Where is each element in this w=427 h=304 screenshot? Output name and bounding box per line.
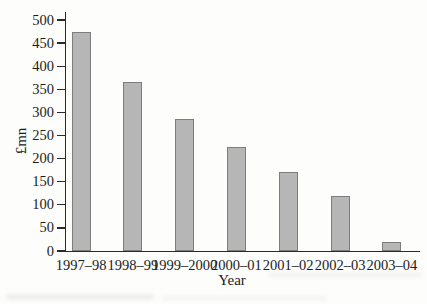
y-tick-label: 450	[22, 36, 54, 51]
y-tick-label: 400	[22, 59, 54, 74]
y-tick-mark	[57, 227, 65, 228]
bar	[331, 196, 350, 251]
y-tick-label: 350	[22, 82, 54, 97]
y-tick-mark	[57, 204, 65, 205]
x-category-label: 2003–04	[356, 257, 427, 273]
y-tick-label: 150	[22, 174, 54, 189]
bar	[227, 147, 246, 251]
y-tick-mark	[57, 66, 65, 67]
bar	[72, 32, 91, 251]
y-tick-label: 50	[22, 220, 54, 235]
bar	[123, 82, 142, 251]
y-axis-line	[65, 12, 66, 252]
scan-artifact	[162, 297, 327, 300]
bar-chart-figure: £mn 0501001502002503003504004505001997–9…	[0, 0, 427, 304]
scan-artifact	[6, 295, 154, 299]
y-tick-mark	[57, 112, 65, 113]
bar	[175, 119, 194, 251]
y-tick-mark	[57, 158, 65, 159]
y-tick-label: 500	[22, 13, 54, 28]
y-tick-label: 200	[22, 151, 54, 166]
y-tick-mark	[57, 42, 65, 43]
y-tick-label: 100	[22, 197, 54, 212]
bar	[382, 242, 401, 251]
y-tick-label: 250	[22, 128, 54, 143]
scan-artifact	[268, 273, 423, 277]
y-tick-mark	[57, 135, 65, 136]
y-tick-mark	[57, 89, 65, 90]
bar	[279, 172, 298, 251]
y-tick-mark	[57, 181, 65, 182]
y-tick-mark	[57, 250, 65, 251]
x-axis-label: Year	[202, 272, 262, 289]
y-tick-label: 300	[22, 105, 54, 120]
y-tick-mark	[57, 19, 65, 20]
